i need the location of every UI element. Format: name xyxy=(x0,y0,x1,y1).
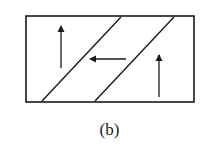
arrows xyxy=(61,26,159,97)
figure-caption: (b) xyxy=(0,120,203,140)
